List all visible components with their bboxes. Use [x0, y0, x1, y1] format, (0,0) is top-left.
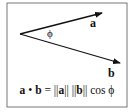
formula-cos: cos: [90, 84, 105, 96]
formula-norm-close-b: ||: [83, 84, 88, 96]
vector-a-label: a: [90, 16, 96, 30]
formula-angle: ϕ: [108, 84, 114, 96]
formula-equals: =: [44, 84, 51, 96]
vector-b-arrow: [20, 34, 120, 63]
angle-phi-label: ϕ: [47, 27, 53, 39]
formula-norm-close-a: ||: [64, 84, 69, 96]
formula-dot-operator: •: [28, 84, 32, 96]
formula-a: a: [20, 84, 26, 96]
vector-b-label: b: [108, 66, 115, 80]
dot-product-formula: a • b = ||a|| ||b|| cos ϕ: [8, 84, 126, 96]
formula-b: b: [35, 84, 41, 96]
